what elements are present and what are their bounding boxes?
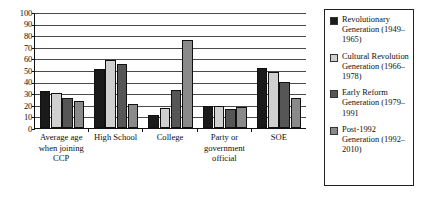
bar [171, 90, 182, 128]
y-axis-tick-label: 50 [8, 67, 32, 76]
bar-group [198, 12, 252, 128]
legend-item: Post-1992 Generation (1992–2010) [330, 125, 409, 156]
y-axis-tick-mark [32, 129, 35, 130]
legend-item: Cultural Revolution Generation (1966–197… [330, 52, 409, 83]
bar [291, 98, 302, 128]
legend-label: Post-1992 Generation (1992–2010) [342, 125, 409, 156]
plot-area [34, 13, 306, 129]
bar-groups [35, 12, 306, 128]
bar [94, 69, 105, 128]
bar-group [143, 12, 197, 128]
bar [160, 108, 171, 128]
bar [279, 82, 290, 128]
legend-item: Early Reform Generation (1979–1991 [330, 88, 409, 119]
bar-chart-figure: 1009080706050403020100 Average age when … [0, 0, 422, 211]
x-axis-category-label: SOE [252, 132, 306, 184]
legend-swatch-icon [330, 17, 338, 25]
y-axis-tick-label: 100 [8, 9, 32, 18]
bar-group [252, 12, 306, 128]
bar [40, 91, 51, 128]
bar-group [89, 12, 143, 128]
y-axis-tick-label: 60 [8, 55, 32, 64]
bar [51, 93, 62, 128]
legend: Revolutionary Generation (1949–1965)Cult… [324, 9, 414, 186]
y-axis-tick-labels: 1009080706050403020100 [8, 13, 32, 129]
legend-label: Early Reform Generation (1979–1991 [342, 88, 409, 119]
bar [257, 68, 268, 128]
y-axis-tick-label: 90 [8, 20, 32, 29]
x-axis-category-label: College [143, 132, 197, 184]
y-axis-tick-label: 80 [8, 32, 32, 41]
legend-swatch-icon [330, 127, 338, 135]
bar [268, 72, 279, 128]
x-axis-category-labels: Average age when joining CCPHigh SchoolC… [34, 132, 306, 184]
bar-group [35, 12, 89, 128]
legend-swatch-icon [330, 90, 338, 98]
y-axis-tick-label: 0 [8, 125, 32, 134]
bar [128, 104, 139, 128]
bar [182, 40, 193, 128]
bar [148, 115, 159, 128]
y-axis-tick-label: 10 [8, 113, 32, 122]
legend-swatch-icon [330, 54, 338, 62]
y-axis-tick-label: 20 [8, 102, 32, 111]
y-axis-tick-label: 40 [8, 78, 32, 87]
bar [62, 98, 73, 128]
legend-label: Revolutionary Generation (1949–1965) [342, 15, 409, 46]
chart-plot-region: 1009080706050403020100 Average age when … [0, 0, 318, 185]
bar [203, 106, 214, 128]
y-axis-tick-label: 30 [8, 90, 32, 99]
x-axis-category-label: Party or government official [197, 132, 251, 184]
bar [236, 107, 247, 128]
bar [225, 109, 236, 128]
x-axis-category-label: Average age when joining CCP [34, 132, 88, 184]
x-axis-category-label: High School [88, 132, 142, 184]
bar [117, 64, 128, 128]
bar [74, 101, 85, 128]
bar [214, 106, 225, 128]
bar [105, 60, 116, 128]
legend-label: Cultural Revolution Generation (1966–197… [342, 52, 409, 83]
y-axis-tick-label: 70 [8, 44, 32, 53]
legend-item: Revolutionary Generation (1949–1965) [330, 15, 409, 46]
